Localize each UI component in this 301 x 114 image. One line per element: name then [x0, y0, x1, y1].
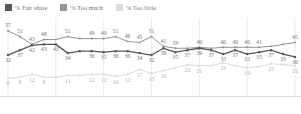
data-point-label: 37 — [232, 52, 238, 58]
data-point-marker — [270, 45, 272, 47]
data-point-marker — [91, 73, 93, 75]
data-point-label: 32 — [149, 57, 155, 63]
data-point-marker — [127, 73, 129, 75]
data-point-marker — [246, 67, 248, 69]
data-point-label: 36 — [113, 53, 119, 59]
data-point-label: 51 — [149, 28, 155, 34]
chart-plot-area: 3237424343343635363634323935373937333733… — [0, 14, 301, 108]
legend-item-2[interactable]: % Too little — [116, 4, 156, 11]
data-point-marker — [103, 38, 105, 40]
legend-item-label: % Too much — [70, 4, 102, 11]
data-point-marker — [198, 65, 200, 67]
data-point-label: 17 — [137, 72, 143, 78]
data-point-label: 32 — [5, 57, 11, 63]
legend-swatch-icon — [5, 4, 12, 11]
data-point-marker — [79, 38, 81, 40]
data-point-marker — [258, 46, 260, 48]
data-point-label: 41 — [256, 39, 262, 45]
data-point-label: 24 — [220, 65, 226, 71]
data-point-marker — [294, 65, 296, 67]
data-point-marker — [186, 64, 188, 66]
data-point-label: 40 — [232, 39, 238, 45]
data-point-marker — [19, 76, 21, 78]
data-point-label: 33 — [220, 56, 226, 62]
data-point-label: 13 — [149, 76, 155, 82]
data-point-label: 40 — [197, 39, 203, 45]
data-point-label: 48 — [41, 31, 47, 37]
data-point-label: 35 — [101, 54, 107, 60]
data-point-label: 37 — [208, 52, 214, 58]
data-point-label: 42 — [29, 47, 35, 53]
data-point-label: 11 — [65, 78, 71, 84]
data-point-marker — [7, 30, 9, 32]
legend-item-1[interactable]: % Too much — [60, 4, 102, 11]
data-point-label: 12 — [101, 77, 107, 83]
data-point-label: 22 — [185, 67, 191, 73]
data-point-label: 45 — [292, 34, 298, 40]
data-point-label: 40 — [220, 39, 226, 45]
data-point-marker — [174, 67, 176, 69]
data-point-label: 37 — [17, 52, 23, 58]
data-point-marker — [174, 47, 176, 49]
data-point-label: 21 — [197, 68, 203, 74]
data-point-label: 43 — [41, 46, 47, 52]
data-point-marker — [234, 46, 236, 48]
legend-swatch-icon — [116, 4, 123, 11]
data-point-marker — [258, 66, 260, 68]
data-point-marker — [79, 50, 82, 53]
data-point-label: 21 — [292, 68, 298, 74]
data-point-marker — [222, 46, 224, 48]
data-point-label: 46 — [125, 33, 131, 39]
data-point-marker — [150, 36, 152, 38]
data-point-marker — [43, 76, 45, 78]
line-chart-svg: 3237424343343635363634323935373937333733… — [0, 14, 301, 108]
data-point-label: 36 — [125, 53, 131, 59]
data-point-marker — [138, 41, 140, 43]
data-point-label: 12 — [125, 77, 131, 83]
data-point-label: 39 — [197, 50, 203, 56]
data-point-marker — [55, 39, 57, 41]
data-point-label: 9 — [42, 79, 45, 85]
data-point-label: 43 — [29, 36, 35, 42]
data-point-label: 16 — [161, 73, 167, 79]
data-point-label: 10 — [113, 79, 119, 85]
data-point-label: 39 — [161, 50, 167, 56]
data-point-label: 39 — [173, 40, 179, 46]
data-point-marker — [162, 69, 164, 71]
data-point-label: 34 — [137, 55, 143, 61]
data-point-label: 37 — [185, 52, 191, 58]
data-point-label: 12 — [89, 77, 95, 83]
legend-swatch-icon — [60, 4, 67, 11]
data-point-marker — [282, 64, 284, 66]
data-point-label: 8 — [7, 80, 10, 86]
data-point-label: 34 — [65, 55, 71, 61]
data-point-label: 49 — [101, 30, 107, 36]
data-point-marker — [31, 73, 33, 75]
chart-legend: % Fair share% Too much% Too little — [5, 2, 169, 12]
data-point-marker — [55, 76, 57, 78]
data-point-marker — [7, 77, 9, 79]
legend-item-0[interactable]: % Fair share — [5, 4, 47, 11]
legend-item-label: % Fair share — [15, 4, 47, 11]
data-point-label: 45 — [137, 34, 143, 40]
data-point-label: 51 — [17, 28, 23, 34]
data-point-marker — [43, 39, 45, 41]
data-point-marker — [138, 69, 140, 71]
data-point-marker — [270, 63, 272, 65]
data-point-label: 51 — [113, 28, 119, 34]
data-point-label: 33 — [244, 56, 250, 62]
data-point-label: 35 — [173, 54, 179, 60]
data-point-label: 49 — [89, 30, 95, 36]
data-point-label: 23 — [268, 66, 274, 72]
data-point-marker — [115, 36, 117, 38]
data-point-marker — [79, 74, 81, 76]
data-point-label: 40 — [244, 39, 250, 45]
data-point-label: 41 — [161, 38, 167, 44]
data-point-label: 36 — [89, 53, 95, 59]
data-point-marker — [234, 65, 236, 67]
data-point-marker — [246, 46, 248, 48]
data-point-label: 12 — [29, 77, 35, 83]
legend-item-label: % Too little — [126, 4, 156, 11]
data-point-marker — [67, 36, 69, 38]
data-point-marker — [67, 74, 69, 76]
